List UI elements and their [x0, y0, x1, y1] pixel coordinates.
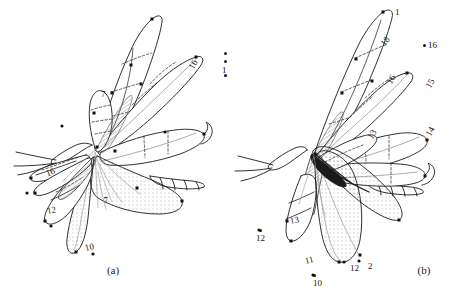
marker-dot-b-0	[423, 44, 426, 47]
panel-a: 1 16 16 7 7 12 10 (a)	[0, 0, 229, 304]
marker-dot-a-0	[224, 52, 227, 55]
panel-a-caption: (a)	[83, 264, 143, 276]
marker-dot-a-2	[224, 74, 227, 77]
label-a-4: 7	[103, 196, 109, 206]
panel-b: 1 18 16 15 14 13 13 12 16 11 12 10 2 (b)	[229, 0, 458, 304]
label-b-11: 10	[313, 279, 322, 288]
label-a-3: 7	[101, 90, 106, 99]
marker-dot-b-1	[259, 229, 262, 232]
figure-root: 1 16 16 7 7 12 10 (a)	[0, 0, 458, 304]
label-a-5: 12	[46, 205, 56, 215]
label-b-12: 2	[368, 262, 373, 271]
label-b-10: 12	[350, 264, 359, 273]
label-b-7: 12	[256, 234, 265, 243]
marker-dot-b-2	[313, 274, 316, 277]
label-b-8: 16	[428, 41, 437, 50]
label-b-0: 1	[395, 8, 400, 17]
marker-dot-a-1	[224, 60, 227, 63]
panel-a-drawing	[0, 0, 229, 304]
label-b-6: 13	[289, 215, 299, 225]
panel-b-caption: (b)	[394, 264, 454, 276]
